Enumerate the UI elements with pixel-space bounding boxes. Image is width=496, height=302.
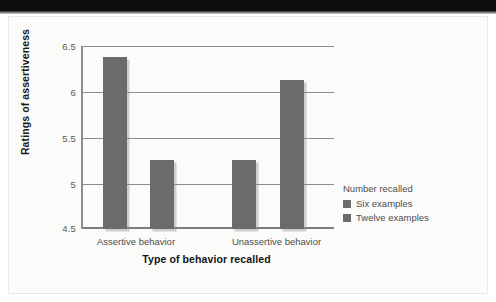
bar-unassertive-twelve (280, 80, 304, 229)
plot-area (81, 46, 332, 229)
legend-label-six: Six examples (356, 198, 413, 209)
legend-title: Number recalled (343, 183, 483, 194)
y-tick-label-5: 5 (52, 179, 76, 190)
x-tick-label-assertive: Assertive behavior (81, 236, 191, 247)
bar-unassertive-six (232, 160, 256, 229)
y-axis-title: Ratings of assertiveness (19, 7, 31, 177)
legend-label-twelve: Twelve examples (356, 212, 429, 223)
y-tick-label-5-5: 5.5 (52, 133, 76, 144)
legend-swatch-icon-twelve (343, 214, 351, 222)
bar-chart: Ratings of assertiveness 6.5 6 5.5 5 4.5… (0, 0, 496, 302)
y-tick-label-6: 6 (52, 87, 76, 98)
legend-item-six-examples: Six examples (343, 198, 483, 209)
legend-item-twelve-examples: Twelve examples (343, 212, 483, 223)
legend-swatch-icon-six (343, 200, 351, 208)
y-tick-label-4-5: 4.5 (52, 223, 76, 234)
bar-assertive-six (103, 57, 127, 229)
x-tick-label-unassertive: Unassertive behavior (214, 236, 339, 247)
gridline-6-5 (83, 46, 334, 47)
legend: Number recalled Six examples Twelve exam… (343, 183, 483, 226)
y-tick-label-6-5: 6.5 (52, 41, 76, 52)
bar-assertive-twelve (150, 160, 174, 229)
x-axis-title: Type of behavior recalled (81, 253, 332, 265)
